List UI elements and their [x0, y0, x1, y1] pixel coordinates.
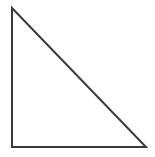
figure-canvas	[0, 0, 155, 157]
right-triangle-figure	[0, 0, 155, 157]
